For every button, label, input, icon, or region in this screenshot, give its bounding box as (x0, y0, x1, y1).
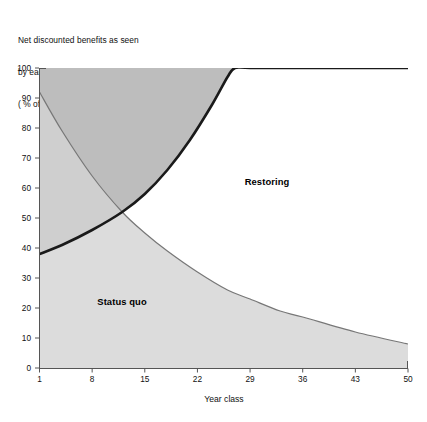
x-axis-ticks (40, 369, 409, 373)
y-axis-tick-label: 10 (5, 334, 31, 343)
y-axis-tick-label: 100 (5, 64, 31, 73)
x-axis-tick-label: 43 (342, 375, 368, 384)
y-axis-tick-label: 0 (5, 364, 31, 373)
y-axis-tick-label: 40 (5, 244, 31, 253)
y-axis-tick-label: 80 (5, 124, 31, 133)
region-label-restoring: Restoring (245, 176, 290, 187)
x-axis-tick-label: 1 (27, 375, 53, 384)
x-axis-title: Year class (204, 394, 243, 404)
x-axis-tick-label: 36 (290, 375, 316, 384)
x-axis-tick-label: 29 (237, 375, 263, 384)
x-axis-tick-label: 15 (132, 375, 158, 384)
plot-area (0, 0, 427, 422)
region-label-status-quo: Status quo (97, 296, 146, 307)
y-axis-tick-label: 50 (5, 214, 31, 223)
y-axis-tick-label: 70 (5, 154, 31, 163)
y-axis-tick-label: 20 (5, 304, 31, 313)
x-axis-tick-label: 22 (184, 375, 210, 384)
y-axis-tick-label: 30 (5, 274, 31, 283)
chart-figure: Net discounted benefits as seen by each … (0, 0, 427, 422)
y-axis-ticks (35, 68, 39, 368)
y-axis-tick-label: 90 (5, 94, 31, 103)
y-axis-tick-label: 60 (5, 184, 31, 193)
x-axis-tick-label: 50 (395, 375, 421, 384)
x-axis-tick-label: 8 (79, 375, 105, 384)
